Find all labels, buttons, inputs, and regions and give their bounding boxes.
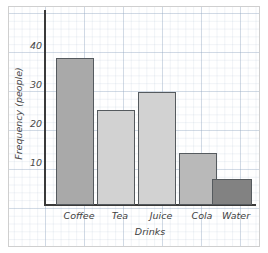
bars-container [46,10,254,205]
bar-chart: 40 30 20 10 Frequency (people) Coffee Te… [0,0,268,253]
x-axis-title: Drinks [44,226,256,237]
bar-juice [138,92,176,205]
bar-water [212,179,252,205]
x-tick-label-water: Water [206,210,266,221]
y-tick-label-40: 40 [16,40,42,51]
bar-coffee [56,58,94,205]
bar-tea [97,110,135,205]
y-axis-title: Frequency (people) [13,64,24,164]
